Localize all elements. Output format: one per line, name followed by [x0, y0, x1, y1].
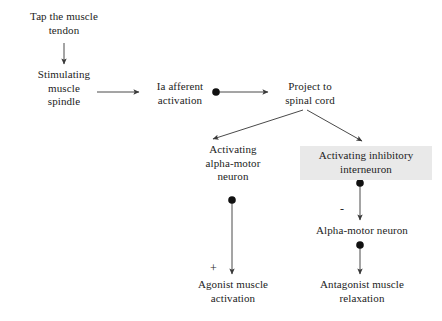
node-tap-tendon: Tap the muscle tendon — [12, 10, 116, 37]
excitatory-sign-agonist: + — [210, 262, 217, 274]
node-agonist-muscle-activation: Agonist muscle activation — [184, 278, 282, 305]
synapse-marker-icon — [228, 196, 236, 204]
node-project-to-spinal-cord: Project to spinal cord — [272, 80, 348, 107]
node-stimulating-muscle-spindle: Stimulating muscle spindle — [20, 68, 108, 109]
node-ia-afferent-activation: Ia afferent activation — [143, 80, 217, 107]
node-activating-inhibitory-interneuron: Activating inhibitory interneuron — [300, 146, 432, 180]
edge-spinal-cord-to-alpha-motor — [213, 110, 303, 139]
synapse-marker-icon — [356, 241, 364, 249]
node-alpha-motor-neuron: Alpha-motor neuron — [303, 224, 421, 238]
node-activating-alpha-motor-neuron: Activating alpha-motor neuron — [187, 143, 279, 184]
node-antagonist-muscle-relaxation: Antagonist muscle relaxation — [303, 278, 421, 305]
synapse-marker-icon — [356, 179, 364, 187]
inhibitory-sign-alpha-motor: - — [340, 203, 344, 215]
edge-spinal-cord-to-interneuron — [307, 110, 362, 141]
diagram-canvas: Tap the muscle tendonStimulating muscle … — [0, 0, 442, 321]
